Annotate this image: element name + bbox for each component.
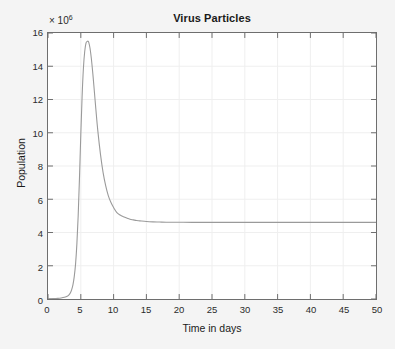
x-axis-tick-label: 10 [98,304,128,315]
x-axis-label: Time in days [47,322,377,334]
y-axis-tick-label: 12 [19,94,43,105]
x-axis-tick-label: 45 [329,304,359,315]
x-axis-tick-label: 25 [197,304,227,315]
x-axis-tick-label: 35 [263,304,293,315]
y-axis-tick-label: 16 [19,27,43,38]
x-axis-tick-label: 40 [296,304,326,315]
x-axis-tick-label: 20 [164,304,194,315]
x-axis-tick-label: 30 [230,304,260,315]
y-axis-tick-label: 2 [19,261,43,272]
y-axis-tick-label: 4 [19,228,43,239]
y-axis-exponent-prefix: × 10 [49,15,69,26]
data-series-line [48,33,376,299]
y-axis-exponent-power: 6 [69,14,73,21]
x-axis-tick-label: 50 [362,304,392,315]
x-axis-tick-labels: 05101520253035404550 [47,304,377,318]
chart-title: Virus Particles [47,12,377,24]
plot-area [47,32,377,300]
x-axis-tick-label: 5 [65,304,95,315]
y-axis-label: Population [15,108,27,218]
chart-figure: Virus Particles × 106 0246810121416 0510… [0,0,395,349]
y-axis-tick-label: 14 [19,60,43,71]
x-axis-tick-label: 0 [32,304,62,315]
x-axis-tick-label: 15 [131,304,161,315]
y-axis-exponent-multiplier: × 106 [49,15,73,26]
